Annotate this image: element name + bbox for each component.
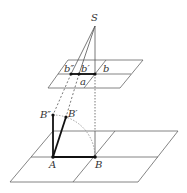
label-S: S [91,12,98,23]
label-a: a [80,76,86,87]
label-B-prime: B′ [67,108,78,119]
label-B-double-prime: B″ [39,109,51,120]
label-b: b [103,63,109,74]
label-B: B [94,159,102,170]
label-b-double-prime: b″ [64,63,74,74]
bold-segments [53,115,95,157]
label-b-prime: b′ [81,63,90,74]
geometry-diagram: S b″ b′ b a B″ B′ A B [0,0,187,193]
label-A: A [48,159,56,170]
